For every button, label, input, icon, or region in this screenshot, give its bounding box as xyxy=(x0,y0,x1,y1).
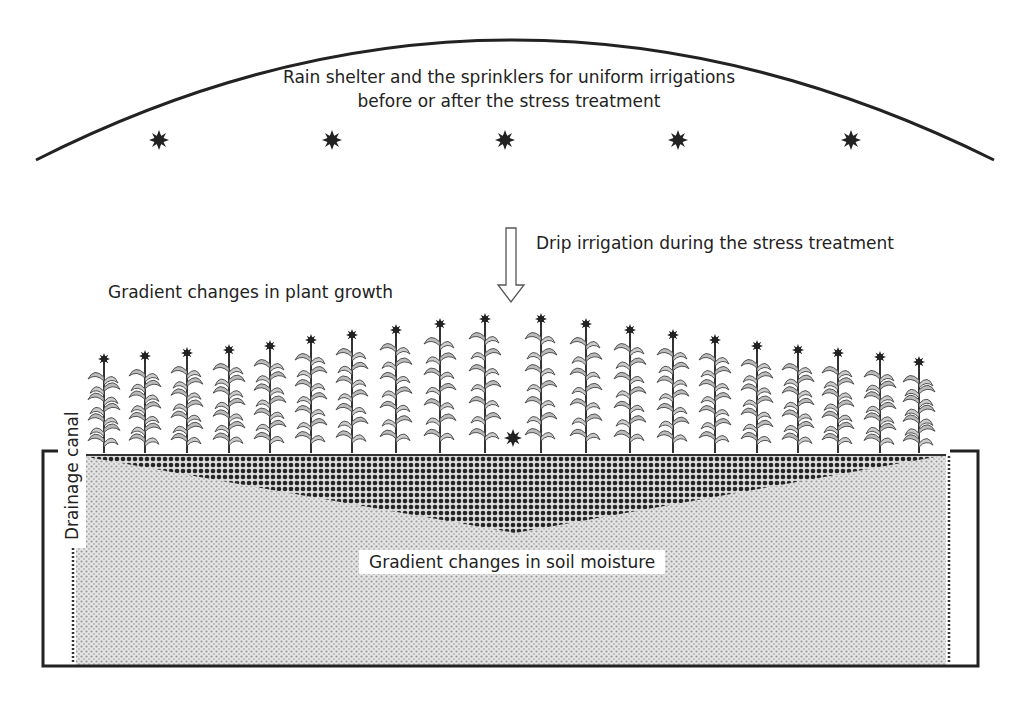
corn-plant-icon xyxy=(699,334,731,453)
drip-emitter-icon xyxy=(504,429,522,447)
corn-plant-icon xyxy=(336,329,368,453)
corn-plant-icon xyxy=(129,350,161,453)
corn-plant-icon xyxy=(469,313,501,453)
corn-plant-icon xyxy=(295,334,327,453)
corn-plant-icon xyxy=(213,344,245,453)
shelter-label-line2: before or after the stress treatment xyxy=(0,89,1018,113)
corn-plant-icon xyxy=(822,347,854,453)
corn-plant-icon xyxy=(424,318,456,453)
corn-plant-icon xyxy=(171,347,203,453)
soil-moisture-label: Gradient changes in soil moisture xyxy=(359,550,665,574)
drip-label: Drip irrigation during the stress treatm… xyxy=(536,233,894,253)
drainage-canal-label: Drainage canal xyxy=(58,422,86,548)
shelter-label-line1: Rain shelter and the sprinklers for unif… xyxy=(0,65,1018,89)
drainage-canal-right xyxy=(946,451,978,666)
corn-plant-icon xyxy=(741,340,773,453)
corn-plant-icon xyxy=(614,324,646,453)
corn-plant-icon xyxy=(570,318,602,453)
corn-plant-icon xyxy=(657,329,689,453)
corn-plant-icon xyxy=(380,324,412,453)
plant-growth-label: Gradient changes in plant growth xyxy=(108,282,393,302)
corn-plant-icon xyxy=(254,340,286,453)
corn-plants xyxy=(88,313,935,453)
corn-plant-icon xyxy=(88,353,120,453)
drip-arrow-icon xyxy=(498,228,524,302)
corn-plant-icon xyxy=(782,344,814,453)
corn-plant-icon xyxy=(864,351,896,453)
sprinkler-icons xyxy=(149,130,861,150)
corn-plant-icon xyxy=(525,313,557,453)
corn-plant-icon xyxy=(903,356,935,453)
shelter-label: Rain shelter and the sprinklers for unif… xyxy=(0,65,1018,113)
